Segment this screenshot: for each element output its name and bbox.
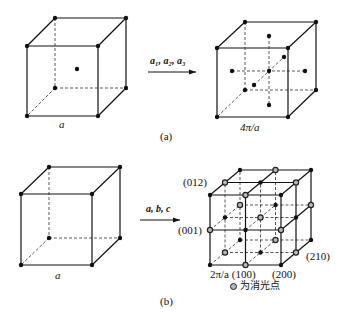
lattice-point: [267, 69, 271, 73]
lattice-point: [282, 55, 286, 59]
extinct-point: [293, 180, 298, 185]
lattice-point: [258, 180, 262, 184]
label-012: (012): [183, 177, 207, 188]
lattice-point: [47, 165, 51, 169]
label-a-right-4pi: 4π/a: [240, 122, 260, 133]
lattice-point: [314, 20, 318, 24]
edge: [288, 22, 316, 48]
lattice-point: [124, 16, 128, 20]
label-a-left-a: a: [59, 119, 65, 130]
lattice-point: [124, 86, 128, 90]
extinct-point: [258, 215, 263, 220]
lattice-point: [96, 114, 100, 118]
lattice-point: [118, 236, 122, 240]
label-100: 2π/a (100): [210, 269, 256, 280]
extinct-point: [243, 192, 248, 197]
lattice-point: [309, 168, 313, 172]
lattice-point: [90, 192, 94, 196]
extinct-point: [308, 202, 313, 207]
lattice-point: [19, 192, 23, 196]
lattice-point: [208, 193, 212, 197]
lattice-point: [19, 263, 23, 267]
lattice-point: [53, 16, 57, 20]
lattice-point: [90, 263, 94, 267]
label-arrow-a: a₁, a₂, a₃: [150, 56, 185, 66]
edge: [217, 22, 245, 48]
extinct-point-icon: [230, 283, 237, 290]
extinct-point: [273, 237, 278, 242]
label-001: (001): [178, 225, 202, 236]
extinct-point: [278, 227, 283, 232]
edge: [98, 88, 126, 116]
lattice-point: [75, 67, 79, 71]
lattice-point: [303, 69, 307, 73]
lattice-point: [267, 103, 271, 107]
hidden-edge: [217, 90, 245, 117]
lattice-point: [267, 34, 271, 38]
extinct-point: [222, 180, 227, 185]
lattice-point: [279, 263, 283, 267]
extinct-point: [273, 167, 278, 172]
lattice-point: [309, 238, 313, 242]
edge: [98, 18, 126, 46]
lattice-point: [314, 88, 318, 92]
extinct-point: [222, 250, 227, 255]
label-210: (210): [306, 251, 330, 262]
lattice-point: [243, 88, 247, 92]
label-b-left-a: a: [55, 270, 61, 281]
lattice-point: [279, 193, 283, 197]
extinct-point: [207, 227, 212, 232]
extinct-point: [293, 250, 298, 255]
arrow-head-icon: [173, 218, 180, 223]
lattice-point: [238, 168, 242, 172]
lattice-point: [96, 44, 100, 48]
lattice-point: [238, 238, 242, 242]
lattice-point: [243, 20, 247, 24]
lattice-point: [215, 46, 219, 50]
lattice-point: [47, 236, 51, 240]
edge: [21, 167, 49, 194]
edge: [92, 238, 120, 265]
extinct-point: [237, 202, 242, 207]
lattice-point: [258, 250, 262, 254]
lattice-point: [208, 263, 212, 267]
lattice-point: [230, 69, 234, 73]
caption-a: (a): [160, 131, 172, 142]
lattice-point: [25, 44, 29, 48]
edge: [92, 167, 120, 194]
lattice-point: [223, 215, 227, 219]
lattice-point: [215, 115, 219, 119]
hidden-edge: [27, 88, 55, 116]
label-arrow-b: a, b, c: [146, 204, 170, 214]
caption-b: (b): [160, 296, 173, 307]
lattice-point: [118, 165, 122, 169]
legend-extinction: 为消光点: [230, 281, 280, 291]
lattice-point: [286, 115, 290, 119]
lattice-point: [294, 215, 298, 219]
lattice-point: [252, 83, 256, 87]
extinct-point: [243, 262, 248, 267]
legend-text: 为消光点: [240, 280, 280, 291]
lattice-point: [273, 203, 277, 207]
lattice-point: [243, 228, 247, 232]
label-200: (200): [272, 269, 296, 280]
lattice-point: [25, 114, 29, 118]
edge: [27, 18, 55, 46]
hidden-edge: [21, 238, 49, 265]
lattice-point: [286, 46, 290, 50]
arrow-head-icon: [189, 70, 196, 75]
lattice-point: [53, 86, 57, 90]
edge: [288, 90, 316, 117]
